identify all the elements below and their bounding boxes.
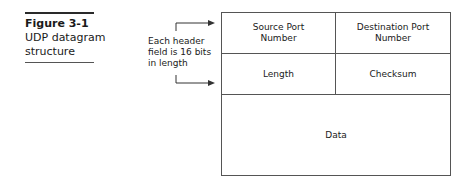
- data-label: Data: [325, 130, 347, 141]
- source-port-line1: Source Port: [253, 22, 305, 33]
- destination-port-line2: Number: [357, 33, 429, 44]
- destination-port-field: Destination Port Number: [336, 13, 450, 53]
- upper-arrow-icon: [176, 20, 215, 31]
- source-port-field: Source Port Number: [222, 13, 335, 53]
- checksum-label: Checksum: [370, 69, 417, 80]
- checksum-field: Checksum: [336, 54, 450, 94]
- udp-datagram-box: Source Port Number Destination Port Numb…: [221, 12, 451, 176]
- length-label: Length: [263, 69, 294, 80]
- data-field: Data: [222, 95, 450, 175]
- destination-port-line1: Destination Port: [357, 22, 429, 33]
- length-field: Length: [222, 54, 335, 94]
- lower-arrow-icon: [176, 75, 215, 86]
- source-port-line2: Number: [253, 33, 305, 44]
